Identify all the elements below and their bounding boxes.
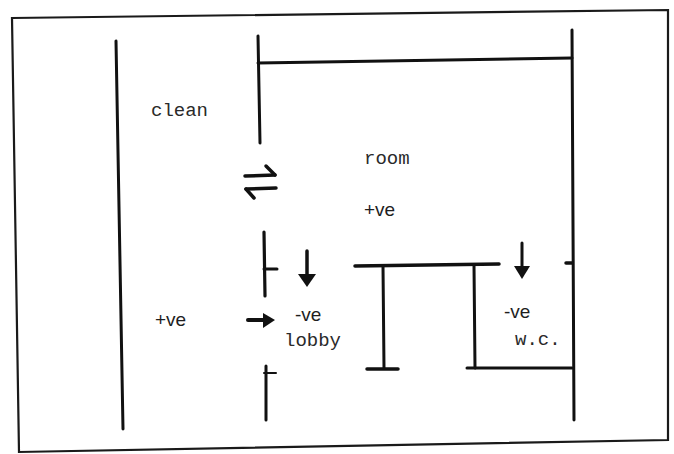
clean-room-top-wall <box>258 58 572 63</box>
left-corridor-wall <box>116 41 123 429</box>
lobby-right-wall <box>383 266 384 368</box>
wc-left-wall <box>474 265 475 368</box>
label-lobby-pressure: -ve <box>295 304 321 325</box>
label-corridor-pressure: +ve <box>155 309 186 330</box>
label-wc-pressure: -ve <box>504 301 530 322</box>
clean-room-right-wall <box>572 30 574 420</box>
lobby-left-wall-upper <box>264 232 265 296</box>
label-lobby: lobby <box>284 330 341 352</box>
outer-frame <box>12 10 668 452</box>
down-arrow-wc-icon <box>514 243 530 279</box>
clean-room-left-wall-upper <box>258 36 260 143</box>
right-arrow-lobby-icon <box>248 313 275 328</box>
label-wc: w.c. <box>515 329 561 351</box>
label-room-pressure: +ve <box>364 199 395 220</box>
down-arrow-lobby-icon <box>298 251 316 287</box>
label-room: room <box>364 148 410 170</box>
lobby-top-wall <box>355 264 499 266</box>
bidirectional-airflow-icon <box>245 166 276 198</box>
label-clean: clean <box>151 100 208 122</box>
pressure-diagram: clean room +ve +ve -ve lobby -ve w.c. <box>0 0 674 454</box>
